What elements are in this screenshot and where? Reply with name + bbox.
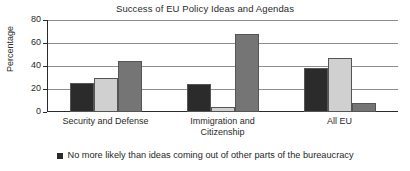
y-tick-label: 80 xyxy=(31,15,41,24)
bar xyxy=(352,103,376,112)
bar xyxy=(118,61,142,112)
y-tick-label: 0 xyxy=(36,107,41,116)
bar xyxy=(94,78,118,113)
bar xyxy=(328,58,352,112)
x-axis-label: Immigration andCitizenship xyxy=(164,116,281,138)
y-tick-label: 60 xyxy=(31,38,41,47)
gridline xyxy=(47,43,398,44)
legend-label: No more likely than ideas coming out of … xyxy=(68,150,354,161)
chart-legend: No more likely than ideas coming out of … xyxy=(0,150,410,161)
y-axis-line xyxy=(47,20,48,112)
legend-entry: No more likely than ideas coming out of … xyxy=(57,150,354,161)
bar xyxy=(70,83,94,112)
plot-area: 020406080 xyxy=(47,20,398,112)
x-axis-label-line: Citizenship xyxy=(164,127,281,138)
x-axis-label: All EU xyxy=(281,116,398,127)
y-tick-label: 20 xyxy=(31,84,41,93)
y-axis-title: Percentage xyxy=(5,17,15,81)
bar xyxy=(304,68,328,112)
x-axis-label-line: Immigration and xyxy=(164,116,281,127)
gridline xyxy=(47,20,398,21)
legend-swatch-icon xyxy=(57,153,63,159)
x-axis-label-line: Security and Defense xyxy=(47,116,164,127)
bar-chart: Success of EU Policy Ideas and Agendas P… xyxy=(0,0,410,171)
bar xyxy=(235,34,259,112)
x-axis-label: Security and Defense xyxy=(47,116,164,127)
y-tick-label: 40 xyxy=(31,61,41,70)
bar xyxy=(211,107,235,112)
bar xyxy=(187,84,211,112)
chart-title: Success of EU Policy Ideas and Agendas xyxy=(0,3,410,15)
x-axis-label-line: All EU xyxy=(281,116,398,127)
